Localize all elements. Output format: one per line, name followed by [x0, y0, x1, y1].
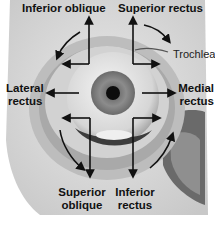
- label-medial-rectus-line2: rectus: [170, 95, 214, 108]
- label-medial-rectus-line1: Medial: [170, 82, 214, 95]
- label-lateral-rectus-line1: Lateral: [6, 82, 44, 95]
- eye-illustration: [0, 0, 215, 247]
- eye-muscles-diagram: Inferior oblique Superior rectus Trochle…: [0, 0, 215, 247]
- label-lateral-rectus-line2: rectus: [8, 95, 43, 108]
- label-trochlea: Trochlea: [173, 48, 215, 61]
- label-superior-oblique-line2: oblique: [57, 199, 107, 212]
- label-superior-rectus: Superior rectus: [118, 2, 203, 15]
- label-superior-oblique-line1: Superior: [57, 186, 107, 199]
- label-inferior-rectus-line1: Inferior: [113, 186, 157, 199]
- label-inferior-oblique: Inferior oblique: [22, 2, 106, 15]
- label-inferior-rectus-line2: rectus: [113, 199, 157, 212]
